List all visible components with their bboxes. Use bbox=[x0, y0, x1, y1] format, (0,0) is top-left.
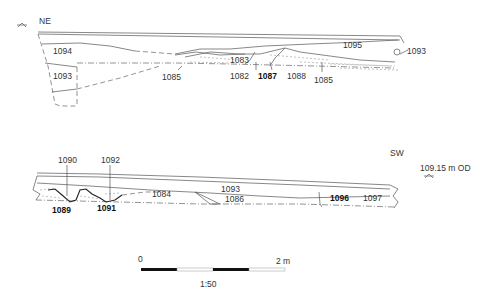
context-label: 1085 bbox=[162, 72, 181, 82]
context-label-bold: 1089 bbox=[52, 205, 71, 215]
context-label-bold: 1087 bbox=[258, 71, 277, 81]
context-label: 1093 bbox=[53, 71, 72, 81]
orientation-label-sw: SW bbox=[390, 148, 404, 158]
orientation-label-ne: NE bbox=[39, 16, 51, 26]
datum-marker-icon bbox=[17, 23, 27, 27]
scale-end-label: 2 m bbox=[276, 256, 290, 266]
context-label: 1085 bbox=[314, 75, 333, 85]
context-label: 1086 bbox=[225, 194, 244, 204]
datum-label: 109.15 m OD bbox=[420, 163, 471, 173]
context-label: 1083 bbox=[230, 55, 249, 65]
lower-section: SW 1090 1092 1084 1093 1086 1096 1097 10… bbox=[33, 148, 471, 215]
context-label-bold: 1096 bbox=[330, 193, 349, 203]
context-label: 1088 bbox=[287, 71, 306, 81]
context-label-bold: 1091 bbox=[97, 203, 116, 213]
scale-ratio-label: 1:50 bbox=[200, 279, 217, 289]
context-label: 1082 bbox=[230, 71, 249, 81]
context-label: 1093 bbox=[407, 46, 426, 56]
context-label: 1097 bbox=[363, 193, 382, 203]
scale-start-label: 0 bbox=[138, 254, 143, 264]
upper-section: NE 1094 1093 1083 1095 1093 bbox=[17, 16, 426, 106]
section-drawing-figure: NE 1094 1093 1083 1095 1093 bbox=[0, 0, 482, 299]
context-label: 1084 bbox=[152, 189, 171, 199]
context-label: 1090 bbox=[58, 155, 77, 165]
scale-bar: 0 2 m 1:50 bbox=[138, 254, 290, 289]
context-label: 1094 bbox=[53, 46, 72, 56]
context-label: 1095 bbox=[343, 40, 362, 50]
context-label: 1092 bbox=[101, 155, 120, 165]
datum-marker-icon bbox=[424, 174, 434, 178]
context-label: 1093 bbox=[221, 184, 240, 194]
